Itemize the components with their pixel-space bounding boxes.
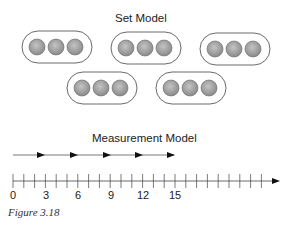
arrowhead-icon — [135, 152, 143, 158]
tick-label-9: 9 — [108, 189, 114, 201]
arrowhead-icon — [103, 152, 111, 158]
coin-icon — [112, 80, 128, 96]
coin-icon — [48, 39, 64, 55]
coin-icon — [74, 80, 90, 96]
arrowhead-icon — [70, 152, 78, 158]
arrowhead-icon — [37, 152, 45, 158]
coin-icon — [163, 80, 179, 96]
coin-icon — [201, 80, 217, 96]
coin-icon — [93, 80, 109, 96]
coin-group — [67, 72, 137, 104]
coin-icon — [226, 41, 242, 57]
coin-icon — [245, 41, 261, 57]
tick-label-0: 0 — [10, 189, 16, 201]
coin-icon — [207, 41, 223, 57]
coin-icon — [137, 40, 153, 56]
measurement-model-title: Measurement Model — [92, 132, 197, 144]
coin-group — [22, 31, 92, 63]
coin-group — [156, 72, 226, 104]
tick-label-15: 15 — [169, 189, 181, 201]
number-line — [13, 174, 280, 188]
coin-icon — [67, 39, 83, 55]
coin-icon — [118, 40, 134, 56]
tick-label-3: 3 — [43, 189, 49, 201]
coin-group — [111, 32, 181, 64]
coin-icon — [29, 39, 45, 55]
tick-label-6: 6 — [75, 189, 81, 201]
coin-icon — [182, 80, 198, 96]
coin-group — [200, 33, 270, 65]
axis-arrow-icon — [272, 178, 280, 184]
jump-arrows — [13, 152, 175, 158]
tick-label-12: 12 — [137, 189, 149, 201]
arrowhead-icon — [167, 152, 175, 158]
figure-caption: Figure 3.18 — [8, 206, 60, 218]
coin-icon — [156, 40, 172, 56]
